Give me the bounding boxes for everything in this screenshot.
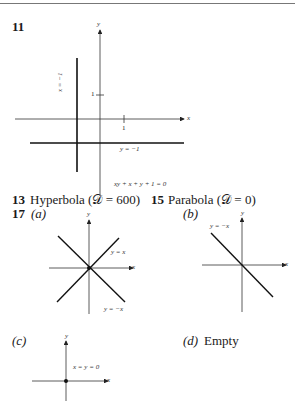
b-x-axis-label: x [285, 260, 288, 268]
horizontal-line-label: y = −1 [120, 145, 140, 153]
part-b-label: (b) [183, 206, 198, 222]
x-axis-label: x [187, 114, 190, 122]
problem-number-15: 15 [151, 192, 164, 208]
b-line-y-eq-neg-x: y = −x [210, 222, 229, 230]
part-a-label: (a) [31, 206, 46, 222]
c-x-axis-label: x [107, 376, 110, 384]
a-line-y-eq-x: y = x [111, 248, 125, 256]
a-x-axis-label: x [132, 263, 135, 271]
y-axis-label: y [97, 20, 100, 28]
part-d-label: (d) [183, 333, 198, 349]
part-c-label: (c) [12, 333, 26, 349]
problem-number-17: 17 [12, 206, 25, 222]
c-point-label: x = y = 0 [73, 363, 99, 371]
equation-label: xy + x + y + 1 = 0 [114, 180, 166, 188]
vertical-line-label: x = −1 [56, 72, 64, 92]
a-y-axis-label: y [87, 210, 90, 218]
answer-d: Empty [204, 333, 239, 349]
c-y-axis-label: y [65, 332, 68, 340]
b-y-axis-label: y [241, 209, 244, 217]
y-tick-label: 1 [91, 90, 95, 98]
answer-15: Parabola (𝒟 = 0) [168, 192, 256, 208]
answer-13: Hyperbola (𝒟 = 600) [30, 192, 140, 208]
a-line-y-eq-neg-x: y = −x [104, 305, 123, 313]
x-tick-label: 1 [122, 124, 126, 132]
